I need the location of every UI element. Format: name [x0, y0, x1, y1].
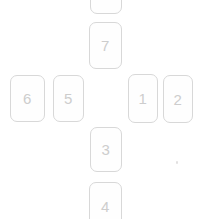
card-slot-label: 4	[101, 199, 110, 214]
stray-mark	[176, 161, 178, 164]
card-slot-7[interactable]: 7	[89, 22, 122, 69]
card-slot-top-partial[interactable]	[90, 0, 122, 14]
card-slot-label: 3	[102, 142, 111, 157]
card-slot-label: 7	[101, 38, 110, 53]
card-slot-6[interactable]: 6	[10, 75, 45, 122]
card-slot-label: 5	[64, 91, 73, 106]
card-slot-label: 1	[139, 91, 148, 106]
card-slot-2[interactable]: 2	[163, 75, 193, 123]
card-slot-label: 6	[23, 91, 32, 106]
card-slot-4[interactable]: 4	[89, 182, 122, 219]
card-slot-1[interactable]: 1	[128, 74, 158, 123]
card-spread-area: 7 6 5 1 2 3 4	[0, 0, 205, 219]
card-slot-label: 2	[174, 92, 183, 107]
card-slot-3[interactable]: 3	[90, 127, 122, 172]
card-slot-5[interactable]: 5	[53, 75, 84, 122]
